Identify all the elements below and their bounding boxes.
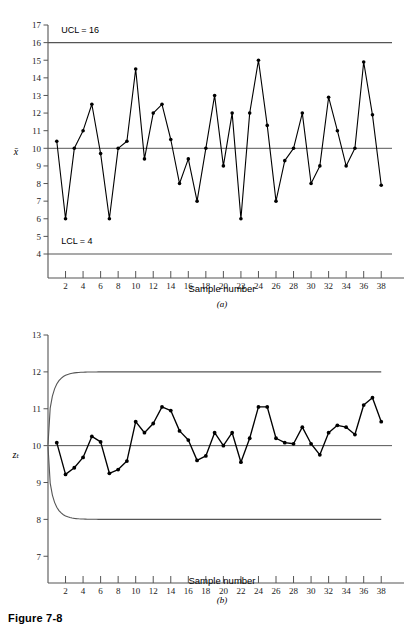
data-point — [204, 454, 208, 458]
data-point — [160, 405, 164, 409]
data-point — [178, 182, 182, 186]
data-point — [344, 425, 348, 429]
data-point — [134, 67, 138, 71]
x-tick-label: 12 — [149, 281, 158, 291]
data-point — [55, 139, 59, 143]
xbar-control-chart: 4567891011121314151617 24681012141618202… — [0, 0, 415, 310]
x-tick-label: 4 — [81, 586, 86, 596]
data-point — [371, 396, 375, 400]
y-tick-label: 7 — [37, 552, 42, 562]
y-tick-label: 12 — [32, 108, 41, 118]
x-tick-label: 16 — [184, 586, 194, 596]
y-tick-label: 4 — [37, 249, 42, 259]
control-limits-b — [48, 372, 392, 520]
data-point — [230, 431, 234, 435]
y-tick-label: 12 — [32, 367, 41, 377]
figure-7-8: 4567891011121314151617 24681012141618202… — [0, 0, 415, 635]
x-axis-label-a: Sample number — [188, 283, 255, 294]
y-tick-label: 11 — [32, 126, 41, 136]
y-tick-label: 6 — [37, 214, 42, 224]
y-tick-label: 10 — [32, 441, 42, 451]
data-point — [309, 442, 313, 446]
data-point — [187, 157, 191, 161]
data-point — [274, 199, 278, 203]
data-series-b — [55, 396, 383, 477]
y-tick-label: 9 — [37, 161, 42, 171]
data-point — [81, 456, 85, 460]
x-tick-label: 8 — [116, 586, 121, 596]
data-point — [108, 217, 112, 221]
data-point — [64, 217, 68, 221]
x-tick-label: 22 — [236, 586, 245, 596]
x-tick-label: 26 — [272, 281, 282, 291]
y-tick-label: 13 — [32, 91, 42, 101]
data-point — [55, 441, 59, 445]
x-tick-label: 38 — [377, 281, 387, 291]
y-axis-label-b: zₜ — [12, 449, 21, 460]
data-point — [379, 420, 383, 424]
y-tick-label: 10 — [32, 144, 42, 154]
data-point — [292, 147, 296, 151]
data-point — [213, 431, 217, 435]
data-point — [90, 102, 94, 106]
data-point — [81, 129, 85, 133]
data-point — [362, 60, 366, 64]
data-point — [222, 164, 226, 168]
x-tick-label: 34 — [342, 281, 352, 291]
x-tick-label: 30 — [307, 281, 317, 291]
lcl-label: LCL = 4 — [61, 236, 92, 246]
data-point — [72, 466, 76, 470]
y-tick-label: 7 — [37, 196, 42, 206]
data-point — [64, 472, 68, 476]
data-point — [239, 460, 243, 464]
lower-control-limit-curve — [48, 446, 381, 519]
y-tick-label: 14 — [32, 73, 42, 83]
panel-a-sublabel: (a) — [217, 299, 228, 309]
data-point — [265, 405, 269, 409]
data-point — [301, 111, 305, 115]
y-tick-label: 8 — [37, 515, 42, 525]
y-tick-label: 5 — [37, 232, 42, 242]
x-tick-label: 32 — [324, 586, 333, 596]
data-point — [379, 184, 383, 188]
data-point — [125, 459, 129, 463]
data-point — [73, 147, 77, 151]
data-point — [371, 113, 375, 117]
data-point — [265, 124, 269, 128]
x-tick-label: 6 — [98, 281, 103, 291]
x-tick-label: 28 — [289, 586, 299, 596]
x-tick-label: 6 — [98, 586, 103, 596]
data-point — [283, 441, 287, 445]
data-point — [151, 111, 155, 115]
x-tick-label: 18 — [201, 586, 211, 596]
data-point — [116, 147, 120, 151]
data-point — [362, 403, 366, 407]
x-tick-label: 14 — [166, 281, 176, 291]
data-point — [292, 442, 296, 446]
x-tick-label: 8 — [116, 281, 121, 291]
data-point — [257, 405, 261, 409]
x-tick-label: 2 — [63, 281, 68, 291]
data-point — [353, 433, 357, 437]
data-point — [248, 436, 252, 440]
y-tick-label: 11 — [32, 404, 41, 414]
y-axis-b: 78910111213 — [32, 330, 48, 571]
x-tick-label: 4 — [81, 281, 86, 291]
data-point — [336, 129, 340, 133]
panel-b-sublabel: (b) — [217, 595, 228, 605]
data-point — [116, 468, 120, 472]
data-point — [151, 422, 155, 426]
data-point — [125, 139, 129, 143]
data-point — [274, 436, 278, 440]
data-series-a — [55, 58, 383, 220]
data-point — [90, 435, 94, 439]
data-point — [318, 453, 322, 457]
x-tick-label: 32 — [324, 281, 333, 291]
data-point — [195, 199, 199, 203]
x-tick-label: 38 — [377, 586, 387, 596]
x-tick-label: 24 — [254, 586, 264, 596]
data-point — [213, 94, 217, 98]
x-tick-label: 14 — [166, 586, 176, 596]
x-axis-label-b: Sample number — [188, 575, 255, 586]
data-point — [204, 147, 208, 151]
